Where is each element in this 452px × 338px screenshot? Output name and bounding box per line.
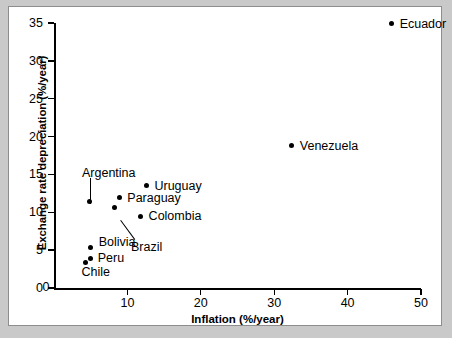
x-tick-label-0: 0 (26, 281, 66, 294)
scatter-plot: 05101520253035 01020304050 Exchange rate… (9, 7, 443, 327)
y-tick-35 (48, 22, 54, 23)
x-axis-title: Inflation (%/year) (54, 313, 421, 325)
y-tick-10 (48, 212, 54, 213)
point-label-paraguay: Paraguay (127, 192, 181, 205)
y-tick-20 (48, 136, 54, 137)
y-tick-25 (48, 98, 54, 99)
x-tick-label-10: 10 (107, 297, 147, 310)
x-tick-50 (420, 289, 421, 295)
x-tick-label-40: 40 (328, 297, 368, 310)
data-point-peru[interactable] (88, 256, 93, 261)
point-label-bolivia: Bolivia (99, 236, 136, 249)
point-label-chile: Chile (82, 266, 111, 279)
y-tick-15 (48, 174, 54, 175)
y-tick-5 (48, 249, 54, 250)
data-point-uruguay[interactable] (144, 183, 149, 188)
data-point-colombia[interactable] (138, 214, 143, 219)
point-label-brazil: Brazil (131, 241, 162, 254)
data-point-paraguay[interactable] (117, 195, 122, 200)
point-label-argentina: Argentina (82, 167, 136, 180)
data-point-venezuela[interactable] (289, 143, 294, 148)
x-tick-label-30: 30 (254, 297, 294, 310)
x-tick-10 (127, 289, 128, 295)
x-axis-line (54, 288, 421, 290)
x-tick-label-20: 20 (181, 297, 221, 310)
data-point-brazil[interactable] (112, 205, 117, 210)
figure-panel: 05101520253035 01020304050 Exchange rate… (8, 6, 442, 326)
data-point-bolivia[interactable] (88, 245, 93, 250)
y-tick-30 (48, 60, 54, 61)
x-tick-label-50: 50 (401, 297, 441, 310)
point-label-ecuador: Ecuador (400, 18, 447, 31)
data-point-chile[interactable] (83, 260, 88, 265)
y-tick-label-35: 35 (9, 17, 43, 30)
x-tick-40 (347, 289, 348, 295)
data-point-ecuador[interactable] (389, 21, 394, 26)
x-tick-20 (200, 289, 201, 295)
point-label-venezuela: Venezuela (300, 140, 358, 153)
point-label-peru: Peru (98, 252, 124, 265)
point-label-colombia: Colombia (149, 210, 202, 223)
y-axis-line (54, 23, 56, 289)
y-axis-title: Exchange rate depreciation (%/year) (36, 38, 48, 268)
leader-line-argentina (90, 178, 91, 204)
x-tick-30 (274, 289, 275, 295)
